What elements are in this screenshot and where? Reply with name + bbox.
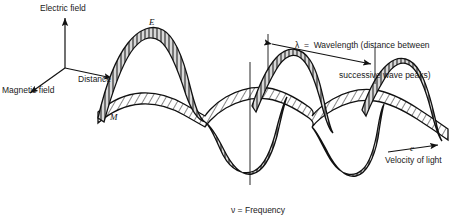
distance-axis-label: Distance (78, 74, 111, 84)
wavelength-annotation-line-1: λ = Wavelength (distance between (295, 40, 431, 50)
electromagnetic-wave-figure: Electric field Magnetic field Distance E… (0, 0, 469, 223)
magnetic-component-label: M (110, 112, 118, 122)
electric-field-axis-label: Electric field (40, 3, 86, 13)
electric-component-label: E (149, 17, 155, 27)
frequency-annotation-line-1: ν = Frequency (231, 205, 353, 215)
wavelength-annotation-line-2: successive wave peaks) (295, 70, 431, 80)
velocity-symbol-label: c (410, 143, 414, 153)
wavelength-annotation: λ = Wavelength (distance between success… (295, 20, 431, 100)
magnetic-field-axis-label: Magnetic field (2, 85, 54, 95)
frequency-annotation: ν = Frequency (number of cycles per seco… (231, 185, 353, 223)
velocity-of-light-caption: Velocity of light (385, 155, 442, 165)
